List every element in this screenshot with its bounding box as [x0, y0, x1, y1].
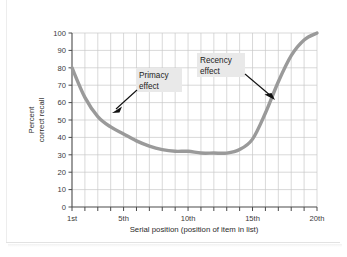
y-tick-label: 90 — [58, 46, 66, 55]
y-tick-label: 40 — [58, 133, 66, 142]
serial-position-figure: 0102030405060708090100 1st5th10th15th20t… — [0, 0, 347, 257]
x-tick-label: 1st — [67, 214, 78, 223]
x-tick-label: 20th — [310, 214, 325, 223]
y-tick-label: 0 — [62, 203, 66, 212]
primacy-label-line2: effect — [139, 82, 160, 91]
y-axis-title-line2: correct recall — [37, 97, 46, 142]
recency-label-line1: Recency — [200, 56, 233, 65]
primacy-label-line1: Primacy — [139, 71, 169, 80]
x-tick-label: 10th — [181, 214, 196, 223]
y-tick-label: 80 — [58, 64, 66, 73]
y-tick-label: 20 — [58, 168, 66, 177]
x-tick-label: 5th — [118, 214, 129, 223]
x-axis-ticks — [72, 207, 317, 211]
x-axis-tick-labels: 1st5th10th15th20th — [67, 214, 324, 223]
y-axis-title-line1: Percent — [27, 106, 36, 134]
y-tick-label: 60 — [58, 98, 66, 107]
serial-position-chart: 0102030405060708090100 1st5th10th15th20t… — [0, 0, 347, 257]
y-tick-label: 10 — [58, 185, 66, 194]
y-tick-label: 30 — [58, 151, 66, 160]
y-tick-label: 100 — [53, 29, 66, 38]
y-tick-label: 70 — [58, 81, 66, 90]
x-axis-title: Serial position (position of item in lis… — [130, 225, 259, 234]
y-tick-label: 50 — [58, 116, 66, 125]
x-tick-label: 15th — [245, 214, 260, 223]
y-axis-tick-labels: 0102030405060708090100 — [53, 29, 66, 212]
recency-label-line2: effect — [200, 67, 221, 76]
